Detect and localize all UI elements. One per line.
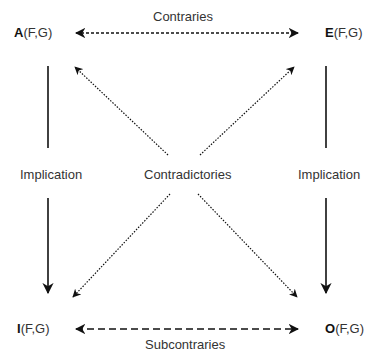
- corner-e-letter: E: [325, 25, 334, 40]
- corner-i: I(F,G): [17, 321, 50, 336]
- subcontraries-label: Subcontraries: [145, 337, 225, 352]
- corner-a-args: (F,G): [23, 25, 52, 40]
- corner-o-args: (F,G): [335, 321, 364, 336]
- implication-left-label: Implication: [20, 167, 82, 182]
- corner-e-args: (F,G): [334, 25, 363, 40]
- contradictories-label: Contradictories: [144, 167, 231, 182]
- contradictory-o-arrow: [198, 194, 297, 297]
- corner-a: A(F,G): [14, 25, 52, 40]
- corner-o: O(F,G): [325, 321, 364, 336]
- contradictory-i-arrow: [73, 194, 170, 297]
- contraries-label: Contraries: [153, 9, 213, 24]
- corner-a-letter: A: [14, 25, 23, 40]
- implication-right-label: Implication: [298, 167, 360, 182]
- corner-o-letter: O: [325, 321, 335, 336]
- corner-e: E(F,G): [325, 25, 363, 40]
- contradictory-a-arrow: [75, 67, 168, 155]
- contradictory-e-arrow: [200, 67, 294, 155]
- corner-i-args: (F,G): [21, 321, 50, 336]
